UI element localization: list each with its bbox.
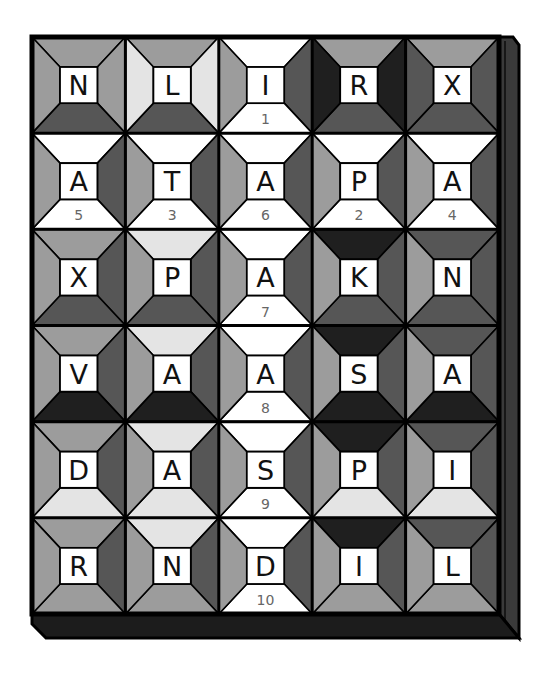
- cell-letter: K: [350, 262, 369, 293]
- cell-number: 4: [448, 207, 457, 223]
- cell-letter: A: [163, 455, 182, 486]
- letter-cell[interactable]: A7: [219, 229, 312, 325]
- cell-number: 9: [261, 496, 270, 512]
- letter-cell[interactable]: A: [406, 326, 499, 422]
- letter-cell[interactable]: X: [406, 37, 499, 133]
- letter-cell[interactable]: P2: [312, 133, 405, 229]
- cell-letter: D: [255, 551, 276, 582]
- cell-letter: A: [69, 166, 88, 197]
- puzzle-board: NLI1RXA5T3A6P2A4XPA7KNVAA8SADAS9PIRND10I…: [0, 0, 551, 676]
- cell-letter: I: [448, 455, 456, 486]
- letter-cell[interactable]: D: [32, 422, 125, 518]
- cell-number: 10: [257, 592, 275, 608]
- cell-number: 6: [261, 207, 270, 223]
- letter-cell[interactable]: P: [312, 422, 405, 518]
- letter-cell[interactable]: L: [125, 37, 218, 133]
- letter-cell[interactable]: P: [125, 229, 218, 325]
- letter-cell[interactable]: S9: [219, 422, 312, 518]
- cell-number: 8: [261, 400, 270, 416]
- letter-cell[interactable]: A: [125, 326, 218, 422]
- cell-letter: A: [256, 359, 275, 390]
- letter-cell[interactable]: I: [406, 422, 499, 518]
- cell-letter: P: [351, 166, 367, 197]
- letter-cell[interactable]: R: [32, 518, 125, 614]
- cell-letter: L: [445, 551, 460, 582]
- cell-number: 1: [261, 111, 270, 127]
- letter-cell[interactable]: A4: [406, 133, 499, 229]
- letter-cell[interactable]: A: [125, 422, 218, 518]
- cell-letter: L: [165, 70, 180, 101]
- cell-letter: A: [163, 359, 182, 390]
- cell-letter: X: [443, 70, 462, 101]
- cell-letter: N: [69, 70, 89, 101]
- letter-grid-svg: NLI1RXA5T3A6P2A4XPA7KNVAA8SADAS9PIRND10I…: [0, 0, 551, 676]
- cell-letter: V: [69, 359, 88, 390]
- cell-letter: N: [442, 262, 462, 293]
- letter-cell[interactable]: A5: [32, 133, 125, 229]
- cell-number: 2: [354, 207, 363, 223]
- cell-number: 3: [168, 207, 177, 223]
- letter-cell[interactable]: R: [312, 37, 405, 133]
- cell-letter: R: [350, 70, 369, 101]
- letter-cell[interactable]: N: [32, 37, 125, 133]
- letter-cell[interactable]: A8: [219, 326, 312, 422]
- letter-cell[interactable]: X: [32, 229, 125, 325]
- letter-cell[interactable]: D10: [219, 518, 312, 614]
- cell-letter: S: [257, 455, 274, 486]
- cell-letter: P: [351, 455, 367, 486]
- board-right-face: [499, 37, 519, 638]
- letter-cell[interactable]: L: [406, 518, 499, 614]
- cell-letter: A: [443, 359, 462, 390]
- cell-letter: A: [256, 262, 275, 293]
- letter-cell[interactable]: A6: [219, 133, 312, 229]
- letter-cell[interactable]: S: [312, 326, 405, 422]
- letter-cell[interactable]: T3: [125, 133, 218, 229]
- letter-cell[interactable]: N: [406, 229, 499, 325]
- letter-cell[interactable]: K: [312, 229, 405, 325]
- cell-number: 7: [261, 304, 270, 320]
- cell-letter: X: [69, 262, 88, 293]
- cell-letter: N: [162, 551, 182, 582]
- cell-number: 5: [74, 207, 83, 223]
- cell-letter: T: [163, 166, 181, 197]
- cell-letter: P: [164, 262, 180, 293]
- cell-letter: D: [68, 455, 89, 486]
- cell-letter: I: [262, 70, 270, 101]
- letter-cell[interactable]: I: [312, 518, 405, 614]
- cell-letter: R: [69, 551, 88, 582]
- board-bottom-face: [32, 614, 519, 638]
- cell-letter: S: [350, 359, 367, 390]
- cell-letter: A: [256, 166, 275, 197]
- cell-letter: I: [355, 551, 363, 582]
- letter-cell[interactable]: N: [125, 518, 218, 614]
- letter-cell[interactable]: V: [32, 326, 125, 422]
- letter-cell[interactable]: I1: [219, 37, 312, 133]
- cell-letter: A: [443, 166, 462, 197]
